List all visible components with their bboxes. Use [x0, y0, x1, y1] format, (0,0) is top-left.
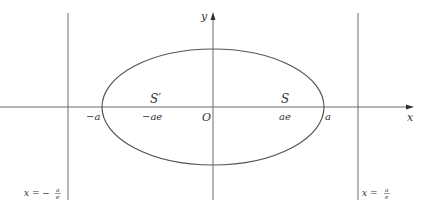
x-axis: [0, 105, 414, 110]
left-focus-coord: −ae: [142, 111, 162, 122]
left-directrix-denominator: e: [56, 193, 60, 200]
right-vertex-label: a: [325, 111, 331, 122]
y-axis-arrow-icon: [211, 12, 216, 20]
right-directrix-lhs: x =: [362, 188, 377, 198]
ellipse-diagram: y x O −a a S′ −ae S ae x = − a e x = a e: [0, 0, 422, 211]
right-focus-label: S: [281, 92, 289, 106]
y-axis: [211, 12, 216, 200]
left-focus-label: S′: [150, 92, 161, 106]
right-directrix-denominator: e: [385, 193, 389, 200]
right-focus-coord: ae: [279, 111, 291, 122]
left-directrix-lhs: x = −: [24, 188, 50, 198]
right-directrix-equation: x = a e: [362, 186, 390, 200]
x-axis-label: x: [407, 111, 414, 124]
y-axis-label: y: [200, 10, 208, 23]
left-directrix-numerator: a: [56, 186, 60, 193]
origin-label: O: [202, 111, 211, 124]
left-vertex-label: −a: [86, 111, 100, 122]
left-directrix-equation: x = − a e: [24, 186, 61, 200]
right-directrix-numerator: a: [385, 186, 389, 193]
x-axis-arrow-icon: [406, 105, 414, 110]
